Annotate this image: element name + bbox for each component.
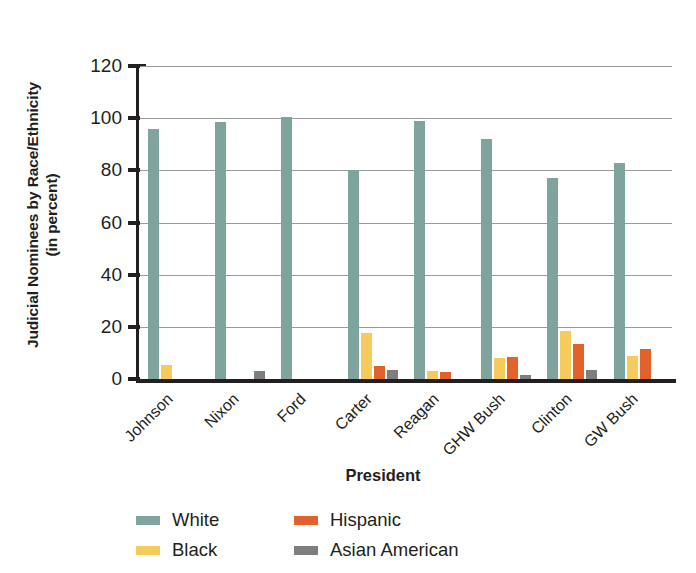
y-axis-tick-label: 100: [66, 107, 122, 129]
x-axis-tick-label: Reagan: [390, 390, 442, 442]
legend-item: Black: [136, 535, 286, 565]
bar-black: [427, 371, 438, 379]
bar-white: [614, 163, 625, 379]
y-axis-tick-label: 0: [66, 368, 122, 390]
y-axis-tick-label: 60: [66, 212, 122, 234]
gridline: [140, 118, 672, 119]
y-axis-title-line2: (in percent): [42, 82, 61, 348]
y-axis-tick-label: 40: [66, 264, 122, 286]
bar-black: [161, 365, 172, 379]
legend-label: Asian American: [330, 539, 459, 561]
legend-swatch-black: [136, 546, 160, 555]
x-axis-tick-label: GHW Bush: [439, 390, 508, 459]
bar-hispanic: [374, 366, 385, 379]
y-axis-title-line1: Judicial Nominees by Race/Ethnicity: [24, 82, 41, 348]
x-axis-tick-label: Clinton: [527, 390, 575, 438]
x-axis-title: President: [0, 466, 696, 485]
y-axis-tick-label: 120: [66, 55, 122, 77]
legend-item: Hispanic: [294, 505, 556, 535]
bar-asian: [254, 371, 265, 379]
x-axis-tick-label: Carter: [332, 390, 376, 434]
x-axis-tick-label-wrap: GHW Bush: [439, 390, 508, 459]
bar-hispanic: [640, 349, 651, 379]
legend-label: White: [172, 509, 219, 531]
x-axis-tick-label: Nixon: [201, 390, 243, 432]
bar-white: [348, 170, 359, 379]
bar-white: [281, 117, 292, 379]
legend-label: Hispanic: [330, 509, 401, 531]
x-axis-tick-label-wrap: Carter: [332, 390, 376, 434]
legend-label: Black: [172, 539, 217, 561]
bar-white: [547, 178, 558, 379]
bar-hispanic: [573, 344, 584, 379]
bar-black: [560, 331, 571, 379]
bar-asian: [520, 375, 531, 379]
legend-item: Asian American: [294, 535, 556, 565]
x-axis-tick-label: Ford: [273, 390, 309, 426]
chart-legend: WhiteHispanicBlackAsian American: [136, 505, 556, 565]
gridline: [140, 66, 672, 67]
y-axis-tick-label: 80: [66, 159, 122, 181]
y-axis-title: Judicial Nominees by Race/Ethnicity (in …: [14, 40, 70, 390]
bar-white: [481, 139, 492, 379]
x-axis-tick-label-wrap: Reagan: [390, 390, 442, 442]
bar-asian: [586, 370, 597, 379]
legend-item: White: [136, 505, 286, 535]
x-axis-tick-label-wrap: Ford: [273, 390, 309, 426]
legend-swatch-asian: [294, 546, 318, 555]
bar-hispanic: [507, 357, 518, 379]
legend-swatch-white: [136, 516, 160, 525]
x-axis-tick-label-wrap: GW Bush: [581, 390, 642, 451]
chart-figure: Judicial Nominees by Race/Ethnicity (in …: [0, 0, 696, 573]
bar-black: [627, 356, 638, 379]
x-axis-tick-label-wrap: Johnson: [121, 390, 177, 446]
bar-white: [215, 122, 226, 379]
x-axis-tick-label-wrap: Nixon: [201, 390, 243, 432]
x-axis-tick-label: Johnson: [121, 390, 177, 446]
x-axis-tick-label: GW Bush: [581, 390, 642, 451]
bar-asian: [387, 370, 398, 379]
x-axis-spine: [136, 379, 676, 383]
legend-swatch-hispanic: [294, 516, 318, 525]
bar-black: [494, 358, 505, 379]
bar-hispanic: [440, 372, 451, 379]
bar-white: [148, 129, 159, 379]
bar-white: [414, 121, 425, 379]
y-axis-tick-label: 20: [66, 316, 122, 338]
x-axis-tick-label-wrap: Clinton: [527, 390, 575, 438]
bar-black: [361, 333, 372, 379]
plot-area: [140, 66, 672, 379]
